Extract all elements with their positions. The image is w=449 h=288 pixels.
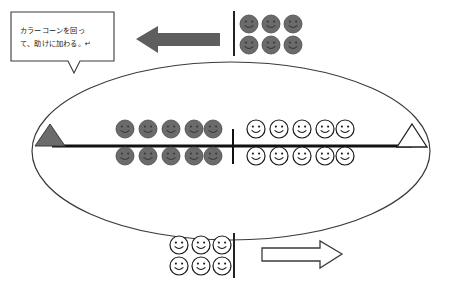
player-token bbox=[139, 147, 157, 165]
player-token bbox=[170, 257, 188, 275]
player-token bbox=[170, 236, 188, 254]
group-bottom-white bbox=[170, 236, 231, 275]
player-token bbox=[247, 120, 265, 138]
player-token bbox=[247, 147, 265, 165]
player-token bbox=[316, 120, 334, 138]
player-token bbox=[192, 236, 210, 254]
player-token bbox=[293, 147, 311, 165]
player-token bbox=[262, 36, 280, 54]
player-token bbox=[213, 257, 231, 275]
diagram-svg bbox=[0, 0, 449, 288]
player-token bbox=[204, 147, 222, 165]
player-token bbox=[270, 147, 288, 165]
player-token bbox=[116, 120, 134, 138]
player-token bbox=[262, 15, 280, 33]
player-token bbox=[284, 15, 302, 33]
player-token bbox=[293, 120, 311, 138]
diagram-canvas: カラーコーンを回っ て、助けに加わる。↵ bbox=[0, 0, 449, 288]
oval-field bbox=[32, 62, 430, 240]
player-token bbox=[284, 36, 302, 54]
arrow-right-bottom-icon bbox=[262, 241, 342, 268]
instruction-callout-box bbox=[11, 12, 114, 73]
player-token bbox=[185, 147, 203, 165]
player-token bbox=[240, 36, 258, 54]
player-token bbox=[116, 147, 134, 165]
player-token bbox=[316, 147, 334, 165]
arrow-left-top-icon bbox=[136, 26, 220, 53]
player-token bbox=[336, 147, 354, 165]
player-token bbox=[162, 120, 180, 138]
player-token bbox=[192, 257, 210, 275]
player-token bbox=[336, 120, 354, 138]
player-token bbox=[213, 236, 231, 254]
player-token bbox=[162, 147, 180, 165]
player-token bbox=[270, 120, 288, 138]
player-token bbox=[240, 15, 258, 33]
group-top-right-dark bbox=[240, 15, 302, 54]
player-token bbox=[185, 120, 203, 138]
player-token bbox=[139, 120, 157, 138]
player-token bbox=[204, 120, 222, 138]
